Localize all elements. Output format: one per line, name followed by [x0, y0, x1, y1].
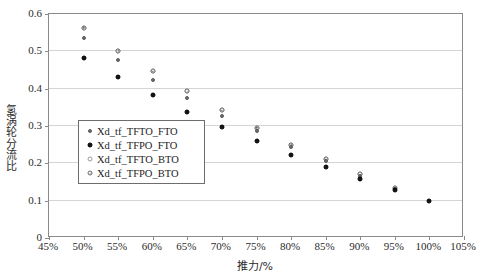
x-tick-label: 75%: [245, 240, 265, 252]
data-point: [219, 124, 224, 129]
data-point: [116, 58, 120, 62]
data-point: [82, 36, 86, 40]
data-point: [150, 69, 155, 74]
legend-label: Xd_tf_TFTO_BTO: [97, 154, 179, 165]
y-tick-label: 0.2: [0, 156, 48, 168]
legend-item[interactable]: Xd_tf_TFPO_FTO: [83, 138, 200, 152]
legend-marker-icon: [83, 166, 97, 180]
gridline-horizontal: [49, 88, 462, 89]
data-point: [220, 114, 224, 118]
data-point: [185, 96, 189, 100]
x-tick-label: 45%: [38, 240, 58, 252]
legend-label: Xd_tf_TFPO_FTO: [97, 140, 177, 151]
x-tick-label: 80%: [280, 240, 300, 252]
x-tick-label: 50%: [72, 240, 92, 252]
data-point: [324, 159, 328, 163]
data-point: [427, 198, 432, 203]
legend-label: Xd_tf_TFTO_FTO: [97, 126, 178, 137]
x-tick-label: 85%: [315, 240, 335, 252]
data-point: [150, 93, 155, 98]
scatter-chart: 氢涡轮分流比 00.10.20.30.40.50.6 45%50%55%60%6…: [0, 0, 484, 278]
x-tick-label: 65%: [176, 240, 196, 252]
data-point: [289, 145, 293, 149]
x-tick-label: 60%: [142, 240, 162, 252]
x-tick-label: 90%: [349, 240, 369, 252]
x-tick-label: 100%: [416, 240, 442, 252]
x-tick-label: 70%: [211, 240, 231, 252]
y-tick-label: 0.5: [0, 44, 48, 56]
marker-glyph: [88, 143, 93, 148]
chart-legend[interactable]: Xd_tf_TFTO_FTOXd_tf_TFPO_FTOXd_tf_TFTO_B…: [78, 120, 205, 184]
legend-label: Xd_tf_TFPO_BTO: [97, 168, 178, 179]
legend-marker-icon: [83, 124, 97, 138]
y-tick-label: 0.4: [0, 82, 48, 94]
legend-item[interactable]: Xd_tf_TFTO_FTO: [83, 124, 200, 138]
gridline-horizontal: [49, 50, 462, 51]
marker-glyph: [88, 129, 92, 133]
data-point: [219, 108, 224, 113]
x-tick-label: 95%: [384, 240, 404, 252]
data-point: [116, 48, 121, 53]
data-point: [323, 165, 328, 170]
y-tick-label: 0.1: [0, 194, 48, 206]
data-point: [358, 176, 363, 181]
data-point: [81, 25, 86, 30]
data-point: [185, 89, 190, 94]
x-tick-label: 105%: [450, 240, 476, 252]
data-point: [116, 75, 121, 80]
data-point: [255, 129, 259, 133]
marker-glyph: [88, 171, 93, 176]
gridline-horizontal: [49, 200, 462, 201]
y-tick-label: 0.6: [0, 7, 48, 19]
data-point: [254, 139, 259, 144]
x-tick-label: 55%: [107, 240, 127, 252]
data-point: [151, 78, 155, 82]
data-point: [81, 56, 86, 61]
data-point: [185, 109, 190, 114]
y-tick-label: 0.3: [0, 119, 48, 131]
marker-glyph: [88, 157, 93, 162]
data-point: [289, 152, 294, 157]
legend-marker-icon: [83, 138, 97, 152]
data-point: [392, 188, 397, 193]
legend-item[interactable]: Xd_tf_TFTO_BTO: [83, 152, 200, 166]
x-axis-title: 推力/%: [237, 257, 273, 273]
legend-marker-icon: [83, 152, 97, 166]
legend-item[interactable]: Xd_tf_TFPO_BTO: [83, 166, 200, 180]
